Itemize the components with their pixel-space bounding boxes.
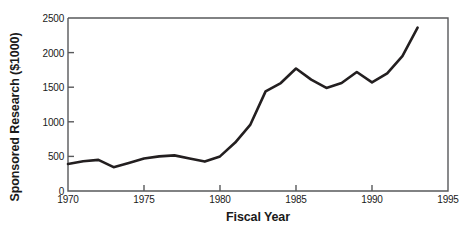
y-axis-ticks [68,53,74,157]
data-series-line [68,28,418,167]
plot-area [0,0,469,234]
chart-figure: Sponsored Research ($1000) 0500100015002… [0,0,469,234]
x-axis-ticks [144,185,372,191]
x-axis-title: Fiscal Year [68,210,448,224]
